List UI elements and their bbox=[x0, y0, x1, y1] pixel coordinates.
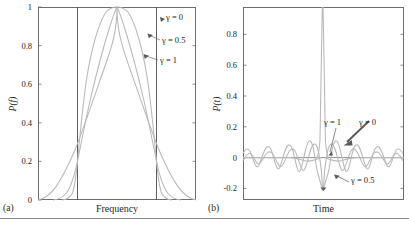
y-tick-label-b-1: 0 bbox=[207, 154, 237, 163]
annotation-a-gamma-1: γ = 1 bbox=[160, 56, 177, 65]
y-axis-label-b: P(t) bbox=[212, 79, 222, 129]
curve-gamma-1-b bbox=[243, 141, 403, 190]
panel-b: -0.2 0 0.2 0.4 0.6 0.8 P(t) Time (b) γ =… bbox=[204, 0, 409, 225]
y-ticks-a bbox=[38, 7, 42, 200]
y-axis-label-a-p: P bbox=[8, 106, 18, 112]
curve-gamma-0-b bbox=[243, 8, 404, 162]
y-tick-label-b-0: -0.2 bbox=[207, 184, 237, 193]
curve-gamma-1-a bbox=[62, 7, 172, 200]
y-ticks-b-right bbox=[401, 34, 405, 188]
curve-gamma-05-b bbox=[243, 144, 403, 190]
y-tick-label-b-5: 0.8 bbox=[207, 30, 237, 39]
figure: 0 0.2 0.4 0.6 0.8 1 P(f) Frequency (a) γ… bbox=[0, 0, 409, 225]
panel-a-graphics bbox=[0, 0, 205, 225]
panel-a: 0 0.2 0.4 0.6 0.8 1 P(f) Frequency (a) γ… bbox=[0, 0, 205, 225]
y-axis-label-a: P(f) bbox=[8, 79, 18, 129]
y-tick-label-a-5: 1 bbox=[6, 3, 32, 12]
y-axis-label-a-var: f bbox=[8, 100, 18, 103]
x-axis-label-b: Time bbox=[243, 203, 404, 214]
annotation-b-gamma-1: γ = 1 bbox=[324, 118, 341, 127]
annotation-a-gamma-05: γ = 0.5 bbox=[162, 36, 185, 45]
panel-letter-b: (b) bbox=[208, 203, 219, 213]
y-tick-label-a-4: 0.8 bbox=[6, 42, 32, 51]
annotation-a-gamma-0: γ = 0 bbox=[166, 13, 183, 22]
y-tick-label-a-1: 0.2 bbox=[6, 157, 32, 166]
annotation-b-gamma-0: γ = 0 bbox=[359, 118, 376, 127]
annotation-b-gamma-05: γ = 0.5 bbox=[351, 176, 374, 185]
y-axis-label-b-var: t bbox=[212, 100, 222, 103]
figure-bottom-rule bbox=[0, 218, 409, 219]
y-tick-label-b-4: 0.6 bbox=[207, 61, 237, 70]
panel-letter-a: (a) bbox=[3, 203, 14, 213]
y-ticks-b bbox=[243, 34, 247, 188]
x-axis-label-a: Frequency bbox=[38, 203, 196, 214]
y-axis-label-b-p: P bbox=[212, 106, 222, 112]
y-ticks-a-right bbox=[193, 46, 197, 162]
